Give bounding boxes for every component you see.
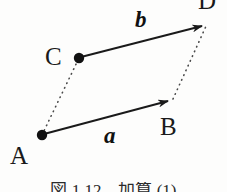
point-dot-a [37, 130, 47, 140]
point-label-d: D [198, 0, 216, 13]
point-label-b: B [160, 114, 177, 139]
vector-diagram-canvas [0, 0, 227, 192]
vector-label-a: a [104, 124, 116, 147]
point-label-a: A [10, 143, 28, 168]
vector-diagram-figure: A B C D a b 図 1.12 加算 (1) [0, 0, 227, 192]
point-label-c: C [45, 44, 62, 69]
figure-caption: 図 1.12 加算 (1) [0, 182, 227, 192]
dotted-guide-b-to-d [173, 24, 207, 99]
vector-label-b: b [135, 8, 147, 31]
point-dot-c [74, 53, 84, 63]
